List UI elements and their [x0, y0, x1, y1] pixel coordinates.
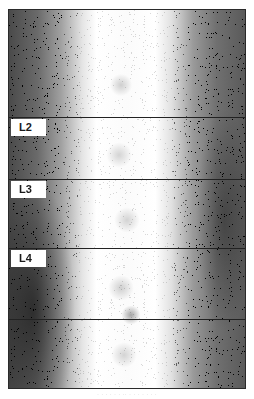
level-divider-3: [9, 248, 245, 249]
scan-figure: L2 L3 L4: [8, 9, 246, 389]
figure-caption: · · · · · · ·· · · · · · · ·: [0, 389, 254, 399]
stipple-texture: [9, 10, 245, 388]
vertebra-label-l4: L4: [11, 250, 46, 267]
vertebra-label-l2: L2: [11, 119, 46, 136]
level-divider-2: [9, 179, 245, 180]
level-divider-1: [9, 117, 245, 118]
vertebra-label-l3: L3: [11, 181, 46, 198]
level-divider-4: [9, 319, 245, 320]
